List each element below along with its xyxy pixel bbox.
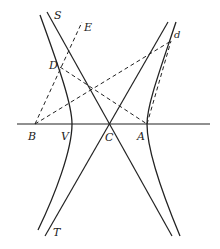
label-a: A	[137, 131, 145, 142]
diagram-canvas	[0, 0, 220, 249]
label-d-lower: d	[174, 30, 180, 40]
label-c: C	[105, 132, 113, 143]
label-t: T	[53, 227, 60, 238]
hyperbola-diagram: S E d D B V C A T	[0, 0, 220, 249]
label-b: B	[28, 131, 36, 142]
label-e: E	[84, 22, 92, 33]
label-s: S	[54, 10, 62, 21]
hyperbola-right-branch	[147, 22, 180, 236]
dashed-line-da	[60, 67, 147, 124]
label-v: V	[61, 131, 69, 142]
dashed-line-be	[35, 22, 82, 124]
label-d: D	[49, 60, 58, 71]
